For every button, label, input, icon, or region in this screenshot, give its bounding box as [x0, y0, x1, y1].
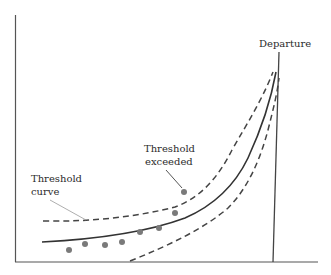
observation-dot — [66, 247, 72, 253]
observation-dot — [137, 229, 143, 235]
threshold-curve-leader — [50, 200, 86, 220]
lower-threshold-curve — [130, 78, 279, 261]
threshold-curve-label-line2: curve — [31, 186, 59, 197]
observation-dot — [82, 241, 88, 247]
observation-dot — [119, 239, 125, 245]
observation-dot — [156, 225, 162, 231]
threshold-exceeded-leader — [166, 170, 182, 188]
observation-dot — [172, 210, 178, 216]
departure-diagram: Departure Threshold exceeded Threshold c… — [0, 0, 331, 275]
departure-label: Departure — [259, 38, 311, 49]
threshold-exceeded-label-line2: exceeded — [145, 156, 193, 167]
threshold-curve-label-line1: Threshold — [31, 173, 83, 184]
observation-dot — [102, 242, 108, 248]
threshold-exceeded-label-line1: Threshold — [144, 143, 196, 154]
observation-dot-exceeded — [181, 189, 187, 195]
